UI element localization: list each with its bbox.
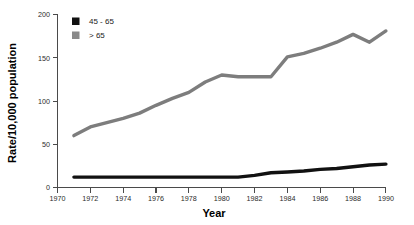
y-tick-label: 150 (38, 54, 50, 63)
series-line-over-65 (74, 31, 386, 136)
chart-legend: 45 - 65 > 65 (72, 17, 114, 40)
chart-figure: Rate/10,000 population Year 200 150 100 … (0, 0, 414, 225)
x-tick-label: 1972 (82, 194, 98, 203)
series-line-45-65 (74, 164, 386, 177)
x-tick-label: 1984 (279, 194, 295, 203)
y-tick-label: 50 (42, 140, 50, 149)
legend-swatch-over-65 (72, 32, 80, 40)
y-tick-label: 200 (38, 10, 50, 19)
x-tick-label: 1982 (247, 194, 263, 203)
line-chart-plot: Rate/10,000 population Year 200 150 100 … (0, 0, 414, 225)
x-tick-label: 1988 (345, 194, 361, 203)
x-axis-title: Year (202, 207, 226, 219)
series-group (74, 31, 386, 177)
y-tick-label: 0 (46, 183, 50, 192)
legend-label-45-65: 45 - 65 (89, 17, 114, 26)
x-tick-label: 1986 (312, 194, 328, 203)
x-tick-label: 1970 (50, 194, 66, 203)
x-tick-label: 1974 (115, 194, 131, 203)
y-axis-title: Rate/10,000 population (6, 43, 18, 163)
x-tick-label: 1976 (148, 194, 164, 203)
x-tick-label: 1978 (181, 194, 197, 203)
y-tick-label: 100 (38, 97, 50, 106)
y-axis-ticks: 200 150 100 50 0 (38, 10, 58, 192)
x-axis-ticks: 1970 1972 1974 1976 1978 1980 1982 1984 … (50, 188, 394, 203)
legend-label-over-65: > 65 (89, 31, 105, 40)
x-tick-label: 1990 (378, 194, 394, 203)
x-tick-label: 1980 (214, 194, 230, 203)
legend-swatch-45-65 (72, 18, 80, 26)
